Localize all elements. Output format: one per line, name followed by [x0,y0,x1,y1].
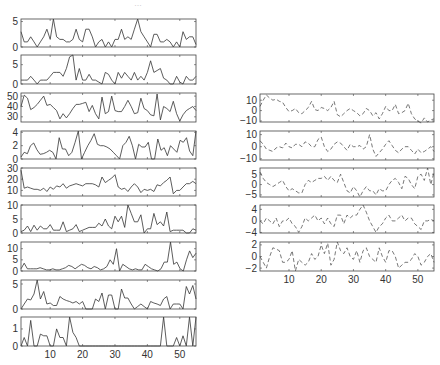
x-tick-label: 50 [174,349,186,360]
axes-frame [260,131,434,160]
data-series-line [21,19,196,47]
subplot-left-6: 0510 [7,200,196,239]
x-tick-label: 20 [316,274,328,285]
y-tick-label: 5 [12,254,18,265]
y-tick-label: −10 [240,115,257,126]
axes-frame [260,242,434,271]
y-tick-label: −4 [246,227,258,238]
y-tick-label: 0 [12,228,18,239]
y-tick-label: 4 [251,204,257,215]
y-tick-label: 40 [7,101,19,112]
subplot-right-5: 1020304050−202 [246,239,434,285]
y-tick-label: 4 [12,127,18,138]
x-tick-label: 40 [380,274,392,285]
axes-frame [21,168,196,196]
y-tick-label: 0 [251,251,257,262]
subplot-right-2: −10010 [240,129,434,164]
y-tick-label: −5 [246,189,258,200]
x-tick-label: 20 [77,349,89,360]
y-tick-label: 10 [7,185,19,196]
axes-frame [260,94,434,122]
y-tick-label: 10 [246,95,258,106]
axes-frame [21,131,196,159]
y-tick-label: 5 [12,16,18,27]
subplot-left-7: 0510 [7,242,196,277]
y-tick-label: 2 [251,239,257,250]
y-tick-label: 5 [12,279,18,290]
y-tick-label: −2 [246,263,258,274]
axes-frame [21,317,196,346]
y-tick-label: 5 [12,59,18,70]
axes-frame [260,205,434,233]
subplot-right-4: −404 [246,204,434,238]
subplot-left-4: 024 [12,127,196,165]
y-tick-label: 0 [12,79,18,90]
y-tick-label: 0 [251,141,257,152]
data-series-line [21,280,196,309]
x-tick-label: 40 [142,349,154,360]
axes-frame [21,280,196,309]
subplot-right-1: −10010 [240,94,434,126]
y-tick-label: 0 [251,215,257,226]
data-series-line [260,135,434,157]
y-tick-label: 5 [251,169,257,180]
data-series-line [260,168,434,197]
y-tick-label: 10 [246,129,258,140]
axes-frame [21,93,196,122]
axes-frame [21,19,196,47]
y-tick-label: 20 [7,174,19,185]
y-tick-label: 10 [7,200,19,211]
y-tick-label: 1 [12,323,18,334]
y-tick-label: 0 [251,179,257,190]
y-tick-label: 0 [12,266,18,277]
x-tick-label: 10 [283,274,295,285]
data-series-line [21,242,196,271]
subplot-left-1: 05 [12,16,196,52]
chart-figure: … 05053040500241020300510051005102030405… [0,0,440,365]
y-tick-label: 5 [12,214,18,225]
x-tick-label: 50 [412,274,424,285]
y-tick-label: 0 [12,341,18,352]
axes-frame [260,168,434,197]
subplot-grid: 0505304050024102030051005100510203040500… [7,16,434,360]
y-tick-label: −10 [240,153,257,164]
data-series-line [21,317,196,346]
data-series-line [21,170,196,194]
subplot-left-5: 102030 [7,163,196,197]
subplot-left-8: 05 [12,279,196,315]
y-tick-label: 50 [7,91,19,102]
subplot-left-3: 304050 [7,91,196,123]
data-series-line [260,205,434,232]
y-tick-label: 2 [12,140,18,151]
x-tick-label: 10 [45,349,57,360]
x-tick-label: 30 [109,349,121,360]
y-tick-label: 30 [7,111,19,122]
y-tick-label: 0 [12,304,18,315]
data-series-line [21,205,196,233]
subplot-left-2: 05 [12,55,196,90]
y-tick-label: 30 [7,163,19,174]
data-series-line [21,131,196,159]
subplot-left-9: 102030405001 [12,317,196,360]
data-series-line [260,95,434,123]
data-series-line [260,242,434,271]
data-series-line [21,94,196,121]
y-tick-label: 10 [7,243,19,254]
subplot-right-3: −505 [246,168,434,200]
data-series-line [21,55,196,84]
y-tick-label: 0 [251,105,257,116]
y-tick-label: 0 [12,42,18,53]
figure-top-mark: … [134,0,142,8]
x-tick-label: 30 [348,274,360,285]
